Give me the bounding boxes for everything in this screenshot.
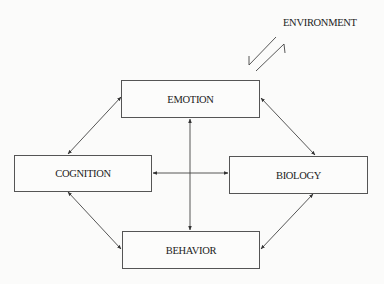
node-biology-label: BIOLOGY — [276, 170, 321, 181]
node-cognition-label: COGNITION — [55, 168, 111, 179]
edge-emotion-biology — [261, 98, 315, 155]
environment-arrow-in — [249, 37, 276, 65]
environment-arrow-out — [256, 44, 285, 71]
node-emotion-label: EMOTION — [167, 94, 213, 105]
node-behavior-label: BEHAVIOR — [166, 245, 217, 256]
environment-label: ENVIRONMENT — [283, 17, 357, 28]
node-cognition: COGNITION — [14, 155, 152, 192]
edge-biology-behavior — [261, 194, 313, 249]
node-biology: BIOLOGY — [229, 156, 368, 194]
edge-cognition-emotion — [68, 97, 121, 154]
node-behavior: BEHAVIOR — [122, 231, 260, 269]
edge-cognition-behavior — [68, 192, 121, 249]
node-emotion: EMOTION — [121, 80, 260, 118]
